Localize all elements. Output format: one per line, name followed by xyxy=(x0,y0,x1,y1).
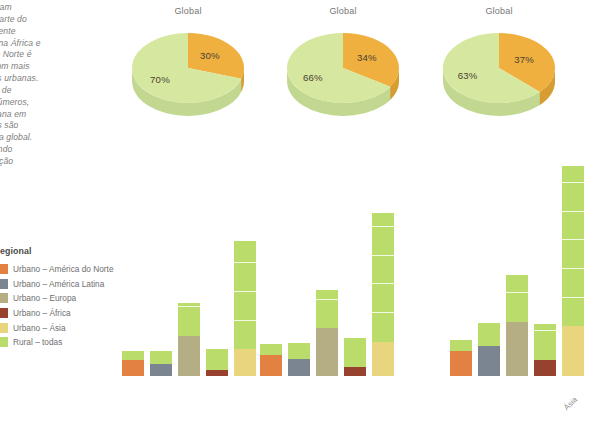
bar-segment-urbano xyxy=(260,355,282,376)
bar-gridline xyxy=(562,297,584,298)
bar-chart-plot-area: América do NorteAmérica LatinaEuropaÁfri… xyxy=(122,241,262,376)
bar-segment-rural xyxy=(260,344,282,355)
pie-chart-title: Global xyxy=(424,6,574,16)
bar-segment-urbano xyxy=(178,336,200,376)
pie-slice-value-label: 66% xyxy=(303,72,323,83)
bar-segment-rural xyxy=(150,351,172,363)
bar-segment-rural xyxy=(478,323,500,347)
pie-slice-value-label: 30% xyxy=(200,50,220,61)
bar-stack xyxy=(316,290,338,376)
bar-gridline xyxy=(234,262,256,263)
bar-segment-urbano xyxy=(478,346,500,376)
bar-segment-rural xyxy=(506,275,528,322)
pie-graphic xyxy=(126,20,250,124)
bar-stack xyxy=(562,166,584,376)
bar-column: Europa xyxy=(316,290,338,376)
bar-segment-rural xyxy=(178,303,200,335)
pie-graphic xyxy=(437,20,561,124)
bar-chart: América do NorteAmérica LatinaEuropaÁfri… xyxy=(450,150,590,376)
bar-gridline xyxy=(534,330,556,331)
bar-column: África xyxy=(534,324,556,376)
pie-chart: Global30%70% xyxy=(113,6,263,124)
bar-gridline xyxy=(562,211,584,212)
bar-gridline xyxy=(372,255,394,256)
bar-stack xyxy=(534,324,556,376)
bar-stack xyxy=(288,343,310,376)
bar-stack xyxy=(506,275,528,376)
pie-chart-title: Global xyxy=(268,6,418,16)
bar-column: África xyxy=(206,349,228,376)
legend-swatch-icon xyxy=(0,279,8,289)
bar-column: Ásia xyxy=(372,213,394,376)
bar-stack xyxy=(344,338,366,376)
bar-stack xyxy=(122,351,144,376)
bar-segment-urbano xyxy=(206,370,228,376)
legend-item-label: Urbano – América Latina xyxy=(13,279,104,289)
bar-stack xyxy=(234,241,256,376)
legend-swatch-icon xyxy=(0,264,8,274)
bar-column: Europa xyxy=(178,303,200,376)
bar-segment-urbano xyxy=(534,360,556,376)
bar-segment-rural xyxy=(344,338,366,368)
bar-gridline xyxy=(234,320,256,321)
bar-gridline xyxy=(562,239,584,240)
bar-column: África xyxy=(344,338,366,376)
bar-segment-rural xyxy=(562,166,584,326)
bar-column: América Latina xyxy=(478,323,500,376)
bar-gridline xyxy=(372,283,394,284)
pie-chart: Global34%66% xyxy=(268,6,418,124)
bar-stack xyxy=(372,213,394,376)
legend-swatch-icon xyxy=(0,323,8,333)
bar-segment-rural xyxy=(316,290,338,328)
bar-segment-urbano xyxy=(344,367,366,376)
bar-stack xyxy=(260,344,282,376)
bar-column: Ásia xyxy=(234,241,256,376)
bar-stack xyxy=(178,303,200,376)
bar-column: América Latina xyxy=(150,351,172,376)
bar-chart-plot-area: América do NorteAmérica LatinaEuropaÁfri… xyxy=(260,213,400,376)
pie-canvas: 34%66% xyxy=(281,20,405,124)
bar-chart: América do NorteAmérica LatinaEuropaÁfri… xyxy=(122,150,262,376)
bar-segment-rural xyxy=(534,324,556,359)
pie-slice-value-label: 37% xyxy=(514,54,534,65)
bar-stack xyxy=(478,323,500,376)
bar-segment-rural xyxy=(122,351,144,360)
bar-gridline xyxy=(372,226,394,227)
bar-chart: América do NorteAmérica LatinaEuropaÁfri… xyxy=(260,150,400,376)
bar-column: América Latina xyxy=(288,343,310,376)
bar-stack xyxy=(206,349,228,376)
legend-item-label: Urbano – Ásia xyxy=(13,323,66,333)
pie-slice-value-label: 70% xyxy=(150,74,170,85)
legend-item-label: Urbano – Europa xyxy=(13,293,76,303)
bar-segment-rural xyxy=(372,213,394,342)
bar-gridline xyxy=(316,299,338,300)
pie-slice-value-label: 63% xyxy=(458,70,478,81)
bar-segment-rural xyxy=(288,343,310,359)
body-copy-paragraph: de futuro variam ão. Grande parte do qua… xyxy=(0,2,116,180)
legend-swatch-icon xyxy=(0,337,8,347)
legend-item-label: Urbano – África xyxy=(13,308,71,318)
bar-chart-plot-area: América do NorteAmérica LatinaEuropaÁfri… xyxy=(450,166,590,376)
pie-chart: Global37%63% xyxy=(424,6,574,124)
bar-segment-urbano xyxy=(288,359,310,376)
bar-gridline xyxy=(506,292,528,293)
pie-canvas: 37%63% xyxy=(437,20,561,124)
pie-canvas: 30%70% xyxy=(126,20,250,124)
bar-segment-rural xyxy=(234,241,256,349)
bar-segment-urbano xyxy=(316,328,338,376)
bar-column: América do Norte xyxy=(450,340,472,376)
bar-segment-urbano xyxy=(150,364,172,376)
bar-segment-urbano xyxy=(234,349,256,376)
bar-segment-rural xyxy=(206,349,228,370)
bar-column: Europa xyxy=(506,275,528,376)
bar-segment-urbano xyxy=(562,326,584,376)
bar-column: América do Norte xyxy=(260,344,282,376)
legend-item-label: Urbano – América do Norte xyxy=(13,264,114,274)
bar-segment-rural xyxy=(450,340,472,351)
bar-gridline xyxy=(562,182,584,183)
bar-gridline xyxy=(234,291,256,292)
pie-chart-title: Global xyxy=(113,6,263,16)
bar-segment-urbano xyxy=(372,342,394,376)
bar-stack xyxy=(150,351,172,376)
legend-swatch-icon xyxy=(0,308,8,318)
